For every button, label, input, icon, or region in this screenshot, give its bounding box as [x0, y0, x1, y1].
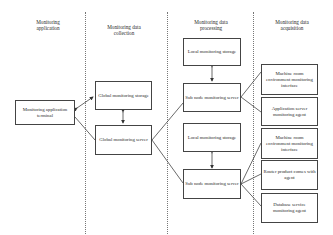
- box-label: Sub node monitoring server: [185, 95, 238, 101]
- database-service-agent-box: Database service monitoring agent: [261, 193, 318, 223]
- box-label: Machine room environment monitoring inte…: [263, 135, 316, 153]
- box-label: Sub node monitoring server: [185, 181, 238, 187]
- global-monitoring-storage-box: Global monitoring storage: [95, 81, 152, 110]
- box-label: Database service monitoring agent: [263, 202, 316, 214]
- box-label: Machine room environment monitoring inte…: [263, 71, 316, 89]
- local-monitoring-storage-box-2: Local monitoring storage: [183, 123, 241, 152]
- sub-node-monitoring-server-box-1: Sub node monitoring server: [183, 83, 241, 112]
- box-label: Router product comes with agent: [263, 169, 316, 181]
- box-label: Local monitoring storage: [188, 49, 237, 55]
- box-label: Global monitoring storage: [98, 93, 149, 99]
- box-label: Application server monitoring agent: [263, 106, 316, 118]
- machine-room-interface-box-2: Machine room environment monitoring inte…: [261, 128, 318, 159]
- box-label: Monitoring application terminal: [17, 107, 73, 119]
- sub-node-monitoring-server-box-2: Sub node monitoring server: [183, 169, 241, 199]
- local-monitoring-storage-box-1: Local monitoring storage: [183, 38, 241, 66]
- box-label: Global monitoring server: [99, 137, 148, 143]
- router-agent-box: Router product comes with agent: [261, 160, 318, 190]
- monitoring-application-terminal-box: Monitoring application terminal: [15, 100, 75, 125]
- box-label: Local monitoring storage: [188, 135, 237, 141]
- machine-room-interface-box-1: Machine room environment monitoring inte…: [261, 64, 318, 95]
- global-monitoring-server-box: Global monitoring server: [95, 125, 152, 155]
- application-server-agent-box: Application server monitoring agent: [261, 97, 318, 126]
